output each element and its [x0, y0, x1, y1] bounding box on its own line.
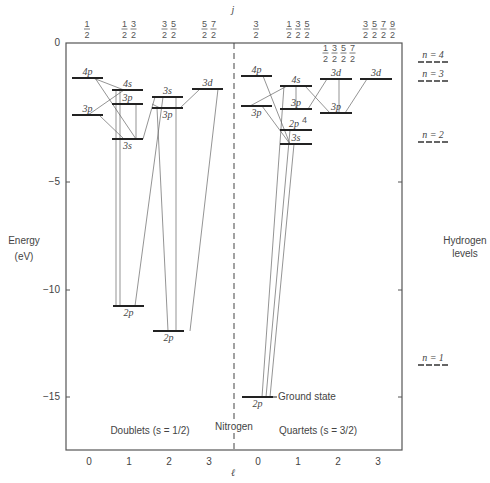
- j-frac-num: 9: [390, 19, 395, 29]
- j-frac-num: 1: [122, 19, 127, 29]
- hydrogen-level-label: n = 1: [422, 352, 444, 363]
- y-axis-label: Energy: [8, 235, 40, 246]
- j-frac-num: 5: [304, 19, 309, 29]
- level-label: 3p: [290, 97, 301, 108]
- y-tick-label: −10: [43, 284, 60, 295]
- j-frac-den: 2: [162, 30, 167, 40]
- transition-line: [345, 79, 367, 113]
- level-label: 3p: [162, 109, 173, 120]
- j-frac-den: 2: [341, 54, 346, 64]
- j-frac-den: 2: [390, 30, 395, 40]
- j-frac-den: 2: [350, 54, 355, 64]
- level-label: 2p: [289, 118, 299, 129]
- x-tick-label: 0: [255, 456, 261, 467]
- transition-line: [180, 89, 200, 108]
- j-frac-den: 2: [381, 30, 386, 40]
- level-superscript: 4: [302, 115, 307, 125]
- j-frac-den: 2: [253, 30, 258, 40]
- nitrogen-label: Nitrogen: [215, 421, 253, 432]
- j-frac-num: 1: [84, 19, 89, 29]
- level-label: 2p: [164, 332, 174, 343]
- x-tick-label: 0: [86, 456, 92, 467]
- level-label: 3p: [122, 92, 133, 103]
- j-frac-den: 2: [122, 30, 127, 40]
- transition-line: [93, 78, 124, 90]
- x-tick-label: 2: [335, 456, 341, 467]
- level-label: 3d: [330, 67, 342, 78]
- level-label: 4p: [252, 64, 262, 75]
- j-frac-den: 2: [304, 30, 309, 40]
- level-label: 3s: [122, 140, 132, 151]
- level-label: 3p: [82, 103, 93, 114]
- j-frac-num: 5: [341, 43, 346, 53]
- j-frac-num: 1: [323, 43, 328, 53]
- j-axis-label: j: [230, 4, 235, 15]
- j-frac-num: 3: [332, 43, 337, 53]
- j-frac-num: 5: [372, 19, 377, 29]
- j-frac-num: 7: [211, 19, 216, 29]
- y-tick-label: −15: [43, 391, 60, 402]
- j-frac-den: 2: [363, 30, 368, 40]
- hydrogen-level-label: n = 2: [422, 129, 444, 140]
- hydrogen-level-label: n = 3: [422, 68, 444, 79]
- j-frac-den: 2: [84, 30, 89, 40]
- doublets-label: Doublets (s = 1/2): [110, 425, 189, 436]
- x-tick-label: 3: [206, 456, 212, 467]
- hydrogen-level-label: n = 4: [422, 49, 444, 60]
- j-frac-num: 3: [295, 19, 300, 29]
- j-frac-num: 3: [131, 19, 136, 29]
- transition-line: [143, 97, 155, 139]
- j-frac-den: 2: [286, 30, 291, 40]
- level-label: 3p: [251, 107, 262, 118]
- y-tick-label: −5: [49, 176, 61, 187]
- level-label: 3p: [330, 101, 341, 112]
- j-frac-num: 3: [162, 19, 167, 29]
- x-tick-label: 2: [166, 456, 172, 467]
- transition-line: [157, 108, 168, 331]
- x-tick-label: 1: [126, 456, 132, 467]
- transition-line: [190, 89, 218, 331]
- j-frac-num: 3: [253, 19, 258, 29]
- j-frac-den: 2: [332, 54, 337, 64]
- hydrogen-label-levels: levels: [452, 248, 478, 259]
- level-label: 4s: [123, 78, 132, 89]
- transition-line: [262, 86, 284, 397]
- level-label: 2p: [253, 398, 263, 409]
- j-frac-num: 1: [286, 19, 291, 29]
- level-label: 4s: [292, 74, 301, 85]
- j-frac-den: 2: [202, 30, 207, 40]
- level-label: 2p: [124, 307, 134, 318]
- j-frac-den: 2: [323, 54, 328, 64]
- y-axis-unit: (eV): [15, 251, 34, 262]
- level-label: 4p: [83, 66, 93, 77]
- ground-state-label: Ground state: [278, 391, 336, 402]
- j-frac-den: 2: [295, 30, 300, 40]
- y-tick-label: 0: [54, 37, 60, 48]
- j-frac-den: 2: [372, 30, 377, 40]
- level-label: 3s: [291, 132, 301, 143]
- j-frac-num: 7: [350, 43, 355, 53]
- transition-line: [135, 97, 163, 306]
- j-frac-den: 2: [171, 30, 176, 40]
- x-tick-label: 1: [295, 456, 301, 467]
- j-frac-num: 3: [363, 19, 368, 29]
- j-frac-den: 2: [131, 30, 136, 40]
- hydrogen-label: Hydrogen: [443, 235, 486, 246]
- x-axis-label: ℓ: [231, 467, 235, 478]
- j-frac-num: 5: [171, 19, 176, 29]
- quartets-label: Quartets (s = 3/2): [279, 425, 357, 436]
- j-frac-den: 2: [211, 30, 216, 40]
- transition-line: [270, 144, 294, 397]
- transition-line: [308, 79, 327, 109]
- level-label: 3d: [370, 67, 382, 78]
- j-frac-num: 7: [381, 19, 386, 29]
- x-tick-label: 3: [375, 456, 381, 467]
- j-frac-num: 5: [202, 19, 207, 29]
- transition-line: [262, 106, 290, 144]
- level-label: 3s: [162, 85, 172, 96]
- level-label: 3d: [202, 77, 214, 88]
- energy-level-diagram: 0−5−10−15Energy(eV)01230123ℓj12123232525…: [0, 0, 490, 483]
